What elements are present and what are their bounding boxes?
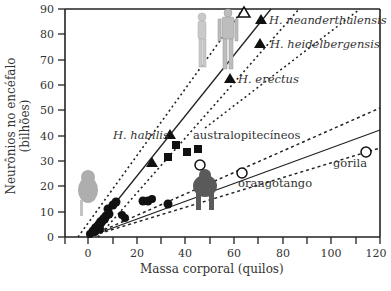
line-dotted-upper: [78, 9, 243, 237]
svg-text:120: 120: [366, 247, 387, 260]
svg-text:50: 50: [40, 104, 54, 117]
y-axis-ticks: [58, 9, 65, 237]
svg-text:40: 40: [178, 247, 192, 260]
svg-text:80: 80: [276, 247, 290, 260]
svg-text:10: 10: [40, 206, 54, 219]
x-axis-ticks: [65, 237, 380, 244]
svg-text:40: 40: [40, 130, 54, 143]
label-australopithecines: australopitecíneos: [193, 128, 300, 142]
svg-text:0: 0: [85, 247, 92, 260]
svg-text:0: 0: [47, 231, 54, 244]
y-axis-tick-labels: 90 80 70 60 50 40 30 20 10 0: [40, 3, 54, 244]
series-australopithecines-squares: [164, 141, 202, 161]
svg-text:90: 90: [40, 3, 54, 16]
svg-text:20: 20: [130, 247, 144, 260]
chimpanzee-illustration: [193, 169, 217, 210]
chart: 90 80 70 60 50 40 30 20 10 0 0 20 40 60 …: [0, 0, 391, 291]
svg-text:60: 60: [227, 247, 241, 260]
label-neanderthalensis: H. neanderthalensis: [268, 13, 387, 27]
y-axis-label: Neurônios no encéfalo (bilhões): [4, 46, 32, 206]
label-orangutan: orangotango: [238, 176, 312, 190]
human-female-illustration: [198, 13, 206, 67]
svg-text:60: 60: [40, 79, 54, 92]
svg-text:20: 20: [40, 180, 54, 193]
svg-text:80: 80: [40, 28, 54, 41]
line-solid-primates: [88, 130, 380, 237]
human-male-illustration: [218, 9, 238, 69]
series-primates-filled-circles: [86, 195, 173, 238]
svg-text:30: 30: [40, 155, 54, 168]
heidelbergensis-triangle: [254, 38, 266, 48]
label-heidelbergensis: H. heidelbergensis: [269, 37, 380, 51]
label-habilis: H. habilis: [112, 128, 169, 142]
label-gorilla: gorila: [333, 156, 367, 170]
label-erectus: H. erectus: [237, 72, 299, 86]
erectus-triangle: [224, 73, 236, 83]
svg-text:70: 70: [40, 54, 54, 67]
x-axis-tick-labels: 0 20 40 60 80 100 120: [85, 247, 387, 260]
monkey-illustration: [78, 170, 98, 216]
svg-text:100: 100: [321, 247, 342, 260]
x-axis-label: Massa corporal (quilos): [140, 262, 284, 276]
